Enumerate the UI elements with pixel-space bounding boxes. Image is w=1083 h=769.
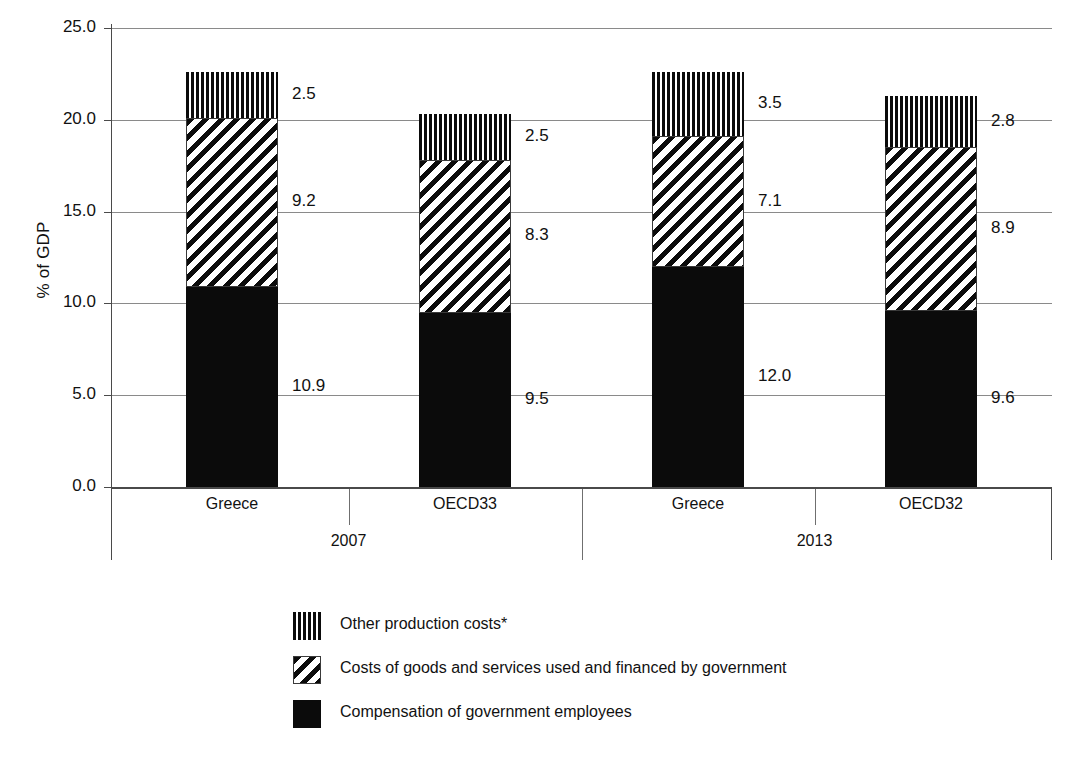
stacked-bar-chart: % of GDP 10.99.22.59.58.32.512.07.13.59.…	[0, 0, 1083, 769]
bar-segment[interactable]	[885, 96, 977, 147]
y-axis-tick	[104, 212, 112, 213]
legend-swatch-icon	[293, 612, 321, 640]
bar-value-label: 9.6	[991, 388, 1015, 408]
y-axis-tick	[104, 28, 112, 29]
bar[interactable]	[652, 28, 744, 487]
bar-segment[interactable]	[652, 267, 744, 487]
bar-segment[interactable]	[186, 72, 278, 118]
category-label: OECD33	[385, 495, 545, 513]
category-separator	[349, 489, 350, 525]
bar[interactable]	[419, 28, 511, 487]
bar-value-label: 8.3	[525, 225, 549, 245]
y-axis-tick	[104, 303, 112, 304]
bar-value-label: 12.0	[758, 366, 791, 386]
category-label: OECD32	[851, 495, 1011, 513]
bar-segment[interactable]	[419, 114, 511, 160]
category-band-right-edge	[1051, 488, 1052, 560]
y-axis-tick	[104, 395, 112, 396]
bar-value-label: 2.8	[991, 111, 1015, 131]
bar-value-label: 10.9	[292, 376, 325, 396]
y-axis-tick-label: 25.0	[30, 17, 96, 37]
bar-segment[interactable]	[419, 313, 511, 487]
legend-label: Costs of goods and services used and fin…	[340, 659, 787, 677]
bar-segment[interactable]	[652, 72, 744, 136]
bar-segment[interactable]	[419, 160, 511, 312]
category-label: Greece	[618, 495, 778, 513]
category-separator	[815, 489, 816, 525]
bar-segment[interactable]	[652, 136, 744, 266]
bar-value-label: 9.5	[525, 389, 549, 409]
bar-segment[interactable]	[885, 311, 977, 487]
y-axis-tick	[104, 120, 112, 121]
chart-legend: Other production costs*Costs of goods an…	[293, 609, 993, 741]
legend-label: Compensation of government employees	[340, 703, 632, 721]
category-label: Greece	[152, 495, 312, 513]
y-axis-tick-label: 15.0	[30, 201, 96, 221]
legend-item[interactable]: Compensation of government employees	[293, 697, 993, 741]
y-axis-tick-label: 5.0	[30, 384, 96, 404]
y-axis-tick-label: 10.0	[30, 292, 96, 312]
bar-value-label: 3.5	[758, 93, 782, 113]
bar-value-label: 2.5	[525, 126, 549, 146]
category-band-left-edge	[111, 488, 112, 560]
plot-area: 10.99.22.59.58.32.512.07.13.59.68.92.8	[111, 28, 1052, 487]
y-axis-tick-label: 20.0	[30, 109, 96, 129]
bar[interactable]	[186, 28, 278, 487]
bar-value-label: 7.1	[758, 191, 782, 211]
category-axis-band: GreeceOECD33GreeceOECD3220072013	[111, 488, 1052, 560]
legend-label: Other production costs*	[340, 615, 507, 633]
legend-swatch-icon	[293, 656, 321, 684]
bar-segment[interactable]	[186, 118, 278, 287]
legend-item[interactable]: Costs of goods and services used and fin…	[293, 653, 993, 697]
group-separator	[582, 489, 583, 560]
bar-value-label: 2.5	[292, 84, 316, 104]
bar[interactable]	[885, 28, 977, 487]
bar-segment[interactable]	[885, 147, 977, 310]
bar-value-label: 9.2	[292, 191, 316, 211]
bar-value-label: 8.9	[991, 218, 1015, 238]
legend-swatch-icon	[293, 700, 321, 728]
group-label: 2013	[735, 532, 895, 550]
group-label: 2007	[269, 532, 429, 550]
bar-segment[interactable]	[186, 287, 278, 487]
legend-item[interactable]: Other production costs*	[293, 609, 993, 653]
y-axis-tick-label: 0.0	[30, 476, 96, 496]
